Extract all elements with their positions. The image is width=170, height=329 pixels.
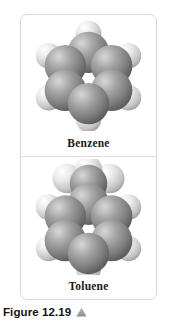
molecule-panel-benzene: Benzene <box>21 15 156 157</box>
up-triangle-icon <box>76 307 87 317</box>
figure-caption: Figure 12.19 <box>3 306 87 318</box>
molecule-panel-toluene: Toluene <box>21 157 156 299</box>
toluene-model-stage <box>21 159 156 275</box>
toluene-carbon-ring <box>45 183 133 274</box>
toluene-space-filling-model <box>21 159 156 275</box>
benzene-label: Benzene <box>21 137 156 149</box>
figure-caption-text: Figure 12.19 <box>3 306 71 318</box>
benzene-model-stage <box>21 19 156 131</box>
figure-frame: Benzene <box>20 14 157 300</box>
benzene-carbon-ring <box>45 32 133 125</box>
benzene-space-filling-model <box>21 19 156 131</box>
toluene-label: Toluene <box>21 280 156 292</box>
